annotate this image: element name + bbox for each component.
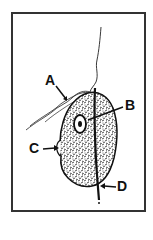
- upper-strand: [90, 27, 101, 92]
- label-c: C: [29, 141, 39, 155]
- label-b: B: [125, 98, 135, 112]
- arrow-c: [43, 148, 55, 149]
- arrow-a: [56, 86, 66, 99]
- label-a: A: [45, 73, 55, 87]
- label-d: D: [117, 179, 127, 193]
- arrow-d: [104, 186, 116, 187]
